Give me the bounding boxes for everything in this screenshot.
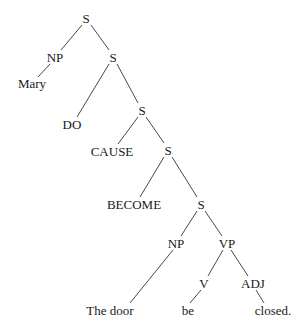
- tree-edge: [190, 290, 201, 303]
- tree-edge: [117, 64, 138, 103]
- leaf-mary: Mary: [18, 77, 46, 90]
- node-s-5: S: [197, 198, 204, 211]
- tree-edge: [61, 25, 82, 50]
- leaf-become: BECOME: [107, 198, 161, 211]
- tree-edge: [118, 117, 138, 144]
- leaf-do: DO: [63, 118, 82, 131]
- leaf-cause: CAUSE: [91, 145, 134, 158]
- leaf-the-door: The door: [86, 304, 133, 317]
- node-s-2: S: [109, 51, 116, 64]
- node-vp: VP: [219, 237, 236, 250]
- node-s-4: S: [164, 144, 171, 157]
- tree-edge: [130, 250, 173, 303]
- tree-edge: [140, 157, 164, 197]
- syntax-tree: S NP Mary S DO S CAUSE S BECOME S NP The…: [0, 0, 301, 332]
- tree-edge: [172, 157, 197, 197]
- tree-edge: [181, 211, 197, 236]
- node-adj: ADJ: [241, 277, 265, 290]
- tree-edge: [256, 290, 264, 303]
- node-s-3: S: [138, 104, 145, 117]
- tree-edge: [231, 250, 248, 276]
- leaf-be: be: [182, 304, 194, 317]
- node-np-subject: NP: [47, 51, 64, 64]
- tree-edge: [91, 25, 109, 50]
- node-np-object: NP: [168, 237, 185, 250]
- leaf-closed: closed.: [255, 304, 291, 317]
- node-v: V: [199, 277, 208, 290]
- tree-edge: [146, 117, 164, 143]
- tree-edge: [205, 211, 222, 236]
- node-s-root: S: [82, 12, 89, 25]
- tree-edge: [208, 250, 223, 276]
- tree-edge: [77, 64, 109, 117]
